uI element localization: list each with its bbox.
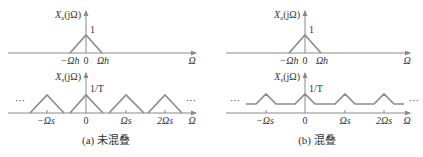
ellipsis-right: ···	[186, 95, 196, 106]
tick-omega-h: Ωh	[316, 55, 328, 66]
peak-label: 1	[309, 24, 314, 35]
tick-neg-omega-h: −Ωh	[280, 55, 299, 66]
panel-a-top-plot: Xa(jΩ) 1 −Ωh 0 Ωh Ω	[8, 9, 196, 66]
sampling-spectra-diagram: Xa(jΩ) 1 −Ωh 0 Ωh Ω Xs(jΩ) 1/T ··· ··· −…	[0, 0, 423, 157]
tick-neg-omega-s: −Ωs	[256, 115, 274, 126]
x-axis-label: Ω	[403, 115, 410, 126]
peak-label: 1/T	[309, 83, 323, 94]
panel-b-bottom-plot: Xs(jΩ) 1/T ··· ··· −Ωs 0 Ωs 2Ωs Ω	[226, 71, 419, 126]
tick-2-omega-s: 2Ωs	[376, 115, 392, 126]
peak-label: 1/T	[90, 83, 104, 94]
y-axis-label: Xa(jΩ)	[273, 9, 300, 22]
tick-2-omega-s: 2Ωs	[157, 115, 173, 126]
x-axis-label: Ω	[188, 55, 195, 66]
panel-b-top-plot: Xa(jΩ) 1 −Ωh 0 Ωh Ω	[226, 9, 411, 66]
tick-omega-s: Ωs	[339, 115, 350, 126]
tick-zero: 0	[303, 115, 308, 126]
ellipsis-right: ···	[409, 95, 419, 106]
x-axis-label: Ω	[188, 115, 195, 126]
tick-omega-s: Ωs	[120, 115, 131, 126]
panel-a: Xa(jΩ) 1 −Ωh 0 Ωh Ω Xs(jΩ) 1/T ··· ··· −…	[8, 9, 196, 147]
x-axis-label: Ω	[403, 55, 410, 66]
tick-zero: 0	[84, 55, 89, 66]
panel-b: Xa(jΩ) 1 −Ωh 0 Ωh Ω Xs(jΩ) 1/T ··· ··· −…	[226, 9, 419, 147]
tick-zero: 0	[303, 55, 308, 66]
y-axis-label: Xs(jΩ)	[273, 71, 300, 84]
tick-neg-omega-h: −Ωh	[61, 55, 80, 66]
panel-a-bottom-plot: Xs(jΩ) 1/T ··· ··· −Ωs 0 Ωs 2Ωs Ω	[8, 71, 196, 126]
caption-a: (a) 未混叠	[82, 134, 130, 147]
tick-omega-h: Ωh	[97, 55, 109, 66]
caption-b: (b) 混叠	[298, 134, 336, 147]
y-axis-label: Xs(jΩ)	[54, 71, 81, 84]
y-axis-label: Xa(jΩ)	[54, 9, 81, 22]
tick-neg-omega-s: −Ωs	[37, 115, 55, 126]
ellipsis-left: ···	[230, 95, 240, 106]
peak-label: 1	[90, 24, 95, 35]
tick-zero: 0	[84, 115, 89, 126]
ellipsis-left: ···	[15, 95, 25, 106]
aliased-spectrum	[246, 94, 404, 104]
